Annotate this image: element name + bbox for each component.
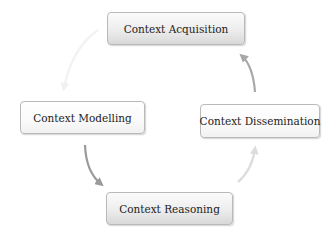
node-label: Context Acquisition bbox=[124, 23, 229, 35]
node-label: Context Dissemination bbox=[200, 115, 321, 127]
arrow-modelling-to-reasoning bbox=[85, 145, 101, 184]
context-lifecycle-diagram: Context Acquisition Context Modelling Co… bbox=[0, 0, 334, 235]
node-context-dissemination: Context Dissemination bbox=[200, 104, 320, 138]
arrow-acquisition-to-modelling bbox=[64, 30, 98, 88]
arrow-dissemination-to-acquisition bbox=[242, 56, 255, 92]
node-label: Context Modelling bbox=[33, 112, 132, 124]
node-context-modelling: Context Modelling bbox=[20, 101, 145, 134]
node-label: Context Reasoning bbox=[119, 203, 220, 215]
node-context-acquisition: Context Acquisition bbox=[107, 12, 245, 45]
node-context-reasoning: Context Reasoning bbox=[106, 192, 233, 225]
arrow-reasoning-to-dissemination bbox=[238, 149, 255, 182]
